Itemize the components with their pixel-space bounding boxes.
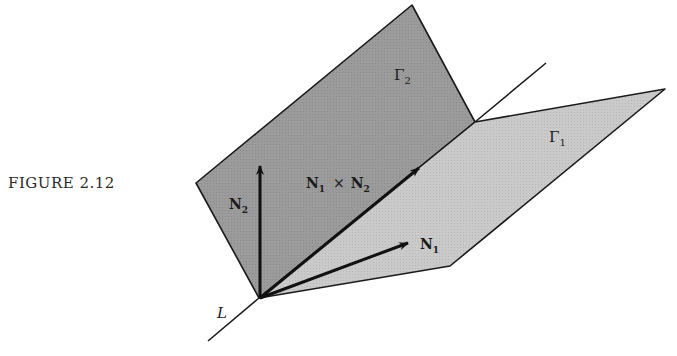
line-L-lower [208,298,259,341]
label-line-L: L [216,304,227,322]
planes-diagram: Γ2 Γ1 N2 N1×N2 N1 L [0,0,677,356]
